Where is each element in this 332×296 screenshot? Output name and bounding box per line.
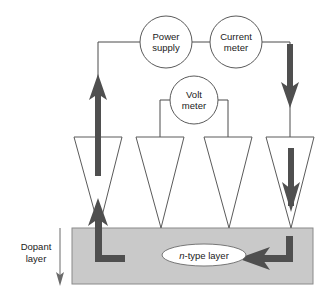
wire-voltmeter-left-lead [160, 100, 170, 137]
dopant-layer-label-line2: layer [26, 253, 47, 264]
current-meter-label-line1: Current [220, 31, 252, 42]
current-flow-arrow-down-wire [281, 44, 299, 108]
instrument-power-supply[interactable]: Power supply [140, 16, 192, 68]
power-supply-label-line2: supply [152, 42, 180, 53]
volt-meter-label-line2: meter [182, 100, 206, 111]
wire-voltmeter-right-lead [218, 100, 228, 137]
four-point-probe-diagram: Power supply Current meter Volt meter n-… [0, 0, 332, 296]
probe-2[interactable] [136, 137, 184, 228]
ntype-rest: -type layer [184, 250, 228, 261]
dopant-layer-annotation: Dopant layer [21, 228, 64, 286]
instrument-volt-meter[interactable]: Volt meter [170, 76, 218, 124]
volt-meter-label-line1: Volt [186, 89, 202, 100]
power-supply-label-line1: Power [153, 31, 180, 42]
ntype-layer-callout: n-type layer [162, 244, 246, 266]
dopant-layer-label-line1: Dopant [21, 241, 52, 252]
instrument-current-meter[interactable]: Current meter [210, 16, 262, 68]
probe-3[interactable] [204, 137, 252, 228]
current-meter-label-line2: meter [224, 42, 248, 53]
ntype-layer-label: n-type layer [179, 250, 229, 261]
